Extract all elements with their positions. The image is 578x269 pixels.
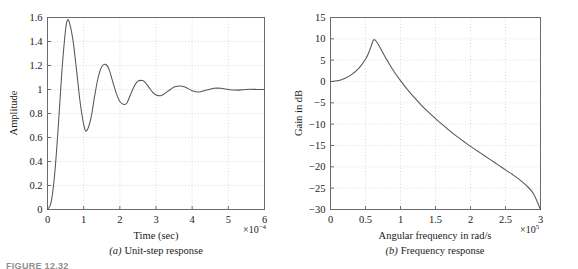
- figure-number-label: FIGURE 12.32: [6, 261, 69, 269]
- x-tick-label: 2.5: [499, 214, 512, 225]
- x-tick-label: 0: [328, 214, 333, 225]
- x-tick-label: 2: [468, 214, 473, 225]
- tick-labels-panel-b: 00.511.522.53−30−25−20−15−10−5051015: [309, 12, 543, 224]
- x-tick-label: 4: [190, 214, 196, 225]
- frequency-response-svg: 00.511.522.53−30−25−20−15−10−5051015 Gai…: [290, 0, 578, 269]
- tick-labels-panel-a: 012345600.20.40.60.811.21.41.6: [29, 12, 267, 224]
- subcaption-index-b: (b): [386, 245, 399, 257]
- y-tick-label: 1: [37, 84, 42, 95]
- y-tick-label: 0.6: [29, 132, 42, 143]
- y-tick-label: −10: [309, 119, 325, 130]
- subcaption-index-a: (a): [109, 245, 122, 257]
- y-tick-label: −30: [309, 204, 325, 215]
- x-tick-label: 1.5: [429, 214, 442, 225]
- subcaption-panel-b: (b)Frequency response: [386, 245, 485, 257]
- y-tick-label: 0: [320, 76, 325, 87]
- subcaption-text-a: Unit-step response: [124, 245, 203, 256]
- y-tick-label: −25: [309, 183, 325, 194]
- y-tick-label: 0.2: [29, 180, 42, 191]
- subcaption-panel-a: (a)Unit-step response: [109, 245, 203, 257]
- y-axis-title-panel-b: Gain in dB: [293, 90, 304, 136]
- y-tick-label: 1.2: [29, 60, 42, 71]
- y-tick-label: −20: [309, 161, 325, 172]
- y-tick-label: 10: [315, 33, 326, 44]
- x-axis-multiplier-panel-a: ×10−4: [243, 223, 267, 235]
- y-tick-label: 1.6: [29, 12, 42, 23]
- chart-panel-unit-step-response: 012345600.20.40.60.811.21.41.6 Amplitude…: [0, 0, 290, 269]
- x-tick-label: 2: [117, 214, 122, 225]
- x-tick-label: 0.5: [359, 214, 372, 225]
- y-tick-label: 0.8: [29, 108, 42, 119]
- x-tick-label: 1: [81, 214, 86, 225]
- x-tick-label: 1: [398, 214, 403, 225]
- grid-lines-panel-b: [331, 18, 541, 210]
- x-tick-label: 0: [45, 214, 50, 225]
- y-tick-label: 0: [37, 204, 42, 215]
- chart-panel-frequency-response: 00.511.522.53−30−25−20−15−10−5051015 Gai…: [290, 0, 578, 269]
- multiplier-base-a: ×10: [243, 224, 259, 235]
- grid-lines-panel-a: [48, 18, 265, 210]
- y-tick-label: 0.4: [29, 156, 43, 167]
- multiplier-exponent-b: 5: [536, 223, 540, 231]
- subcaption-text-b: Frequency response: [401, 245, 485, 256]
- x-axis-title-panel-b: Angular frequency in rad/s: [379, 230, 492, 241]
- y-tick-label: −5: [314, 97, 325, 108]
- x-tick-label: 5: [226, 214, 231, 225]
- x-axis-multiplier-panel-b: ×105: [520, 223, 540, 235]
- figure-container: 012345600.20.40.60.811.21.41.6 Amplitude…: [0, 0, 578, 269]
- y-tick-label: 15: [315, 12, 326, 23]
- multiplier-exponent-a: −4: [259, 223, 267, 231]
- unit-step-response-svg: 012345600.20.40.60.811.21.41.6 Amplitude…: [0, 0, 290, 269]
- y-tick-label: −15: [309, 140, 325, 151]
- y-tick-label: 5: [320, 55, 325, 66]
- x-tick-label: 3: [153, 214, 158, 225]
- y-axis-title-panel-a: Amplitude: [8, 90, 19, 135]
- y-tick-label: 1.4: [29, 36, 43, 47]
- multiplier-base-b: ×10: [520, 224, 536, 235]
- x-axis-title-panel-a: Time (sec): [134, 230, 179, 242]
